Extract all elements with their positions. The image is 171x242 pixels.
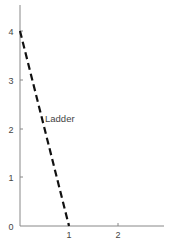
- ladder-line: [20, 31, 69, 226]
- x-axis-tick-labels: 1 2: [66, 230, 120, 240]
- ladder-diagram: 4 3 2 1 0 1 2 Ladder: [0, 0, 171, 242]
- x-tick-label-1: 1: [66, 230, 71, 240]
- y-axis-tick-labels: 4 3 2 1 0: [8, 27, 13, 232]
- y-tick-label-1: 1: [8, 173, 13, 183]
- x-tick-label-2: 2: [115, 230, 120, 240]
- y-tick-label-3: 3: [8, 76, 13, 86]
- y-tick-label-0: 0: [8, 222, 13, 232]
- ladder-label: Ladder: [45, 113, 75, 124]
- y-tick-label-4: 4: [8, 27, 13, 37]
- y-tick-label-2: 2: [8, 125, 13, 135]
